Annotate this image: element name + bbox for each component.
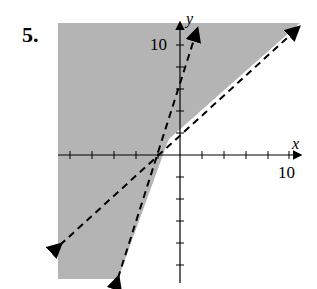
svg-text:x: x	[291, 135, 299, 152]
graph: 10 10 x y	[0, 0, 317, 289]
svg-text:y: y	[184, 10, 194, 28]
svg-text:10: 10	[278, 163, 295, 182]
figure: 5. 10 10 x y	[0, 0, 317, 289]
svg-text:10: 10	[150, 35, 167, 54]
